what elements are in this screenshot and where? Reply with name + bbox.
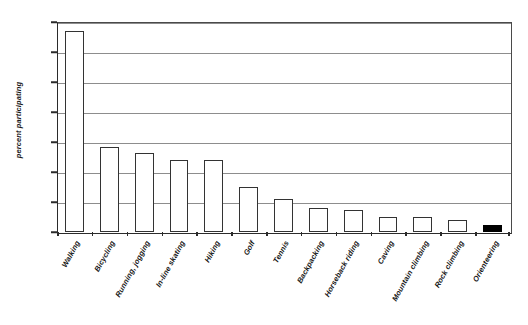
bar xyxy=(135,153,154,233)
x-label-slot: Golf xyxy=(231,237,266,323)
bar xyxy=(309,208,328,232)
bar xyxy=(344,210,363,233)
bar-slot xyxy=(162,22,197,232)
bar-slot xyxy=(405,22,440,232)
x-label-slot: Rock climbing xyxy=(440,237,475,323)
bar-slot xyxy=(196,22,231,232)
x-label-slot: In-line skating xyxy=(162,237,197,323)
x-axis-category-label: Tennis xyxy=(272,239,292,265)
bar xyxy=(379,217,398,232)
x-label-slot: Orienteering xyxy=(475,237,510,323)
x-tick-mark xyxy=(475,232,477,236)
bar xyxy=(170,160,189,232)
bar-slot xyxy=(371,22,406,232)
x-axis-category-label: Caving xyxy=(376,239,396,266)
x-axis-category-label: Orienteering xyxy=(470,239,500,283)
x-axis-category-label: Walking xyxy=(60,239,82,269)
x-tick-mark xyxy=(57,232,59,236)
x-tick-mark xyxy=(92,232,94,236)
bar xyxy=(239,187,258,232)
x-axis-category-label: Bicycling xyxy=(93,239,117,273)
bar-slot xyxy=(231,22,266,232)
bar xyxy=(65,31,84,232)
y-axis-title: percent participating xyxy=(14,60,23,180)
x-tick-mark xyxy=(405,232,407,236)
bar-slot xyxy=(475,22,510,232)
bar-slot xyxy=(336,22,371,232)
bar-slot xyxy=(266,22,301,232)
bar-slot xyxy=(57,22,92,232)
x-label-slot: Horseback riding xyxy=(336,237,371,323)
x-axis-labels: WalkingBicyclingRunning, joggingIn-line … xyxy=(57,237,510,323)
bars-container xyxy=(57,22,510,232)
bar-slot xyxy=(92,22,127,232)
x-tick-mark xyxy=(371,232,373,236)
bar-slot xyxy=(301,22,336,232)
bar xyxy=(448,220,467,232)
x-tick-mark xyxy=(231,232,233,236)
bar-slot xyxy=(440,22,475,232)
bar xyxy=(204,160,223,232)
x-tick-mark xyxy=(336,232,338,236)
x-tick-mark xyxy=(196,232,198,236)
bar-slot xyxy=(127,22,162,232)
x-tick-mark xyxy=(266,232,268,236)
x-axis-category-label: Backpacking xyxy=(295,239,326,285)
x-label-slot: Hiking xyxy=(196,237,231,323)
x-tick-mark xyxy=(440,232,442,236)
x-tick-mark xyxy=(162,232,164,236)
x-tick-mark xyxy=(508,232,510,236)
x-tick-mark xyxy=(301,232,303,236)
x-axis-category-label: Golf xyxy=(241,239,256,257)
x-tick-mark xyxy=(127,232,129,236)
bar xyxy=(483,225,502,233)
x-label-slot: Walking xyxy=(57,237,92,323)
bar-chart: percent participating 0%10%20%30%40%50%6… xyxy=(0,0,528,325)
bar xyxy=(274,199,293,232)
bar xyxy=(413,217,432,232)
x-axis-category-label: Hiking xyxy=(202,239,221,264)
bar xyxy=(100,147,119,233)
